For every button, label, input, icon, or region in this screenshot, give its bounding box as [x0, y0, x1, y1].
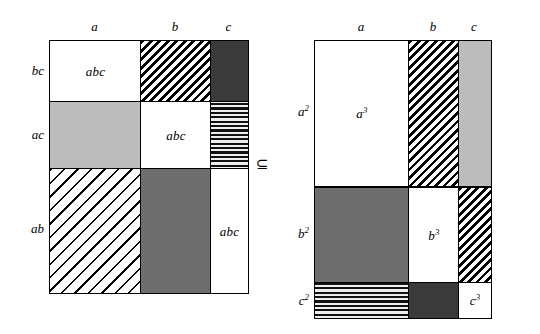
left-column-header-b: b	[140, 20, 210, 33]
left-cell-bc-a-label: abc	[86, 65, 105, 78]
left-cell-ab-a	[49, 168, 142, 294]
left-cell-ab-c: abc	[210, 168, 249, 294]
right-cell-c2-c: c3	[458, 282, 492, 319]
right-cell-a2-a-label: a3	[356, 107, 367, 120]
left-cell-ac-b: abc	[140, 101, 212, 170]
right-row-header-a2: a2	[276, 105, 309, 118]
left-cell-ac-c	[210, 101, 249, 170]
right-cell-b2-c	[458, 187, 492, 284]
left-cell-ac-a	[49, 101, 142, 170]
relation-subset-symbol: ⊆	[256, 157, 269, 172]
right-column-header-c: c	[458, 20, 490, 33]
left-cell-bc-c	[210, 40, 249, 103]
right-column-header-a: a	[314, 20, 408, 33]
right-cell-c2-b	[408, 282, 460, 319]
left-matrix-figure: a b c bc ac ab abc abc abc	[0, 0, 268, 334]
left-column-header-c: c	[210, 20, 247, 33]
left-cell-ab-b	[140, 168, 212, 294]
right-column-header-b: b	[408, 20, 458, 33]
left-column-header-a: a	[49, 20, 140, 33]
right-cell-b2-a	[314, 187, 410, 284]
right-cell-a2-b	[408, 40, 460, 187]
right-row-header-c2: c2	[276, 294, 309, 307]
right-cell-c2-a	[314, 282, 410, 319]
left-cell-bc-a: abc	[49, 40, 142, 103]
right-row-header-b2: b2	[276, 227, 309, 240]
right-cell-b2-b-label: b3	[428, 229, 439, 242]
right-matrix-grid: a3 b3 c3	[314, 40, 490, 315]
left-cell-bc-b	[140, 40, 212, 103]
right-cell-b2-b: b3	[408, 187, 460, 284]
left-cell-ac-b-label: abc	[166, 129, 185, 142]
right-row-header-c2-exponent: 2	[305, 292, 309, 302]
right-cell-c2-c-label: c3	[470, 294, 481, 307]
left-cell-ab-c-label: abc	[220, 225, 239, 238]
left-matrix-grid: abc abc abc	[49, 40, 247, 290]
left-row-header-bc: bc	[2, 64, 44, 77]
left-row-header-ab: ab	[2, 222, 44, 235]
right-row-header-b2-exponent: 2	[305, 225, 309, 235]
right-row-header-a2-exponent: 2	[305, 103, 309, 113]
left-row-header-ac: ac	[2, 128, 44, 141]
right-cell-a2-a: a3	[314, 40, 410, 187]
right-cell-a2-c	[458, 40, 492, 187]
right-matrix-figure: a b c a2 b2 c2 a3 b3	[276, 0, 540, 334]
